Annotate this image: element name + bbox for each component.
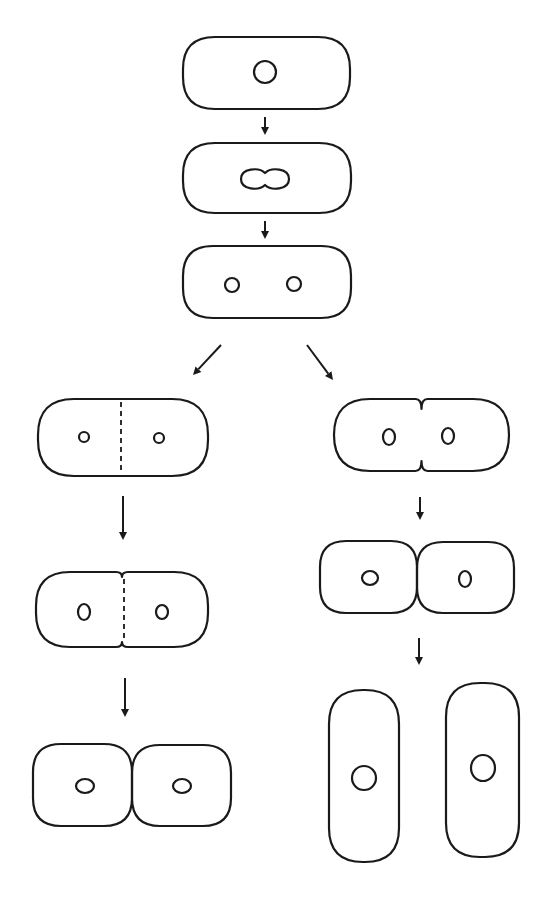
cell-division-diagram — [0, 0, 550, 905]
arrow-right-2-3-icon — [415, 638, 423, 665]
cell-wall — [38, 399, 208, 476]
nucleoid — [225, 278, 239, 292]
nucleoid — [154, 433, 164, 443]
left-3 — [33, 744, 231, 826]
cell-wall — [329, 690, 399, 862]
nucleoid — [459, 571, 471, 587]
arrow-branch-right-icon — [307, 345, 333, 380]
nucleoid — [76, 779, 94, 793]
arrow-branch-left-icon — [193, 345, 221, 375]
cell-wall — [446, 683, 519, 857]
arrow-left-2-3-icon — [121, 678, 129, 717]
daughter-cell-wall — [132, 745, 231, 826]
arrow-right-1-2-icon — [416, 497, 424, 520]
nucleoid — [156, 605, 168, 619]
nucleoid — [78, 604, 90, 620]
cell-wall — [183, 37, 350, 109]
cell-wall — [334, 399, 509, 471]
nucleoid — [471, 755, 495, 781]
nucleoid — [383, 429, 395, 445]
daughter-cell-wall — [417, 542, 514, 613]
diagram-canvas — [0, 0, 550, 905]
nucleoid — [254, 61, 276, 83]
left-2 — [36, 572, 208, 647]
cell-2 — [183, 143, 351, 213]
arrow-1-2-icon — [261, 117, 269, 135]
right-3b — [446, 683, 519, 857]
cell-wall — [183, 246, 351, 318]
nucleoid — [352, 766, 376, 790]
cell-1 — [183, 37, 350, 109]
daughter-cell-wall — [33, 744, 132, 826]
nucleoid — [287, 277, 301, 291]
arrow-left-1-2-icon — [119, 496, 127, 540]
arrow-2-3-icon — [261, 221, 269, 239]
nucleoid — [442, 428, 454, 444]
left-1 — [38, 399, 208, 476]
arrows-layer — [119, 117, 424, 717]
nucleoid — [173, 779, 191, 793]
cell-wall — [183, 143, 351, 213]
cell-wall — [36, 572, 208, 647]
nucleoid — [362, 571, 378, 585]
right-2 — [320, 541, 514, 613]
cells-layer — [33, 37, 519, 862]
cell-3 — [183, 246, 351, 318]
nucleoid — [79, 432, 89, 442]
right-1 — [334, 399, 509, 471]
daughter-cell-wall — [320, 541, 417, 613]
right-3a — [329, 690, 399, 862]
dividing-nucleoid — [241, 169, 289, 188]
